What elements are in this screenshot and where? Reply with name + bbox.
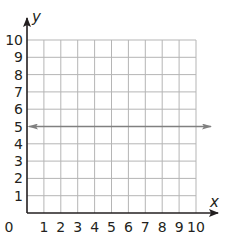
y-axis-label: y xyxy=(31,8,42,26)
y-tick-label: 10 xyxy=(5,32,23,48)
y-tick-label: 4 xyxy=(14,136,23,152)
x-tick-label: 6 xyxy=(124,219,133,235)
x-tick-label: 4 xyxy=(90,219,99,235)
x-tick-label: 9 xyxy=(175,219,184,235)
y-tick-label: 2 xyxy=(14,170,23,186)
y-tick-label: 6 xyxy=(14,101,23,117)
y-tick-label: 5 xyxy=(14,119,23,135)
tick-labels: 01234567891012345678910 xyxy=(5,32,205,235)
x-tick-label: 10 xyxy=(187,219,205,235)
y-tick-label: 7 xyxy=(14,84,23,100)
y-tick-label: 3 xyxy=(14,153,23,169)
x-axis-label: x xyxy=(209,193,219,211)
x-tick-label: 7 xyxy=(141,219,150,235)
x-tick-label: 5 xyxy=(107,219,116,235)
coordinate-plane: 01234567891012345678910 x y xyxy=(0,0,234,239)
x-tick-label: 0 xyxy=(5,219,14,235)
y-tick-label: 8 xyxy=(14,67,23,83)
x-tick-label: 2 xyxy=(56,219,65,235)
x-tick-label: 1 xyxy=(39,219,48,235)
x-tick-label: 3 xyxy=(73,219,82,235)
y-tick-label: 9 xyxy=(14,49,23,65)
axes xyxy=(27,18,218,213)
y-tick-label: 1 xyxy=(14,188,23,204)
x-tick-label: 8 xyxy=(158,219,167,235)
